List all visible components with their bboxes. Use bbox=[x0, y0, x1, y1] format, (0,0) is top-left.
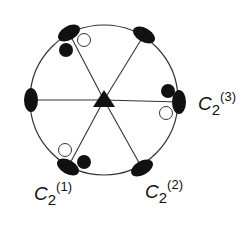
filled-dot-icon bbox=[59, 43, 73, 57]
twofold-axis-lens-icon bbox=[130, 23, 158, 47]
threefold-axis-triangle-icon bbox=[93, 90, 115, 107]
label-c2-3: C2(3) bbox=[198, 90, 236, 117]
twofold-axis-lens-icon bbox=[128, 156, 156, 180]
twofold-axis-lens-icon bbox=[24, 88, 38, 112]
axis-line bbox=[104, 100, 142, 168]
open-dot-icon bbox=[59, 144, 72, 157]
open-dot-icon bbox=[160, 107, 173, 120]
open-dot-icon bbox=[78, 34, 91, 47]
label-c2-2: C2(2) bbox=[145, 178, 183, 205]
filled-dot-icon bbox=[161, 84, 175, 98]
filled-dot-icon bbox=[77, 155, 91, 169]
axis-line bbox=[104, 35, 144, 100]
label-c2-1: C2(1) bbox=[34, 180, 72, 207]
axis-line bbox=[104, 100, 179, 102]
